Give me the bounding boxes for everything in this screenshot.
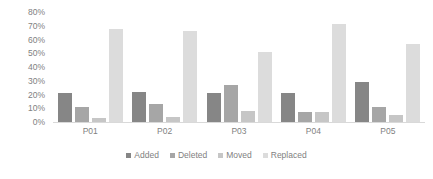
bar-deleted-p03[interactable] [224, 85, 238, 122]
bar-deleted-p04[interactable] [298, 112, 312, 122]
y-axis-tick-label: 80% [28, 7, 45, 17]
bar-moved-p05[interactable] [389, 115, 403, 122]
legend-swatch-icon [170, 153, 175, 158]
bar-group-p02 [127, 12, 201, 122]
x-axis-tick-label: P04 [276, 124, 350, 138]
x-axis-tick-label: P03 [202, 124, 276, 138]
legend-label: Replaced [271, 150, 307, 160]
legend-item-moved[interactable]: Moved [218, 150, 252, 160]
bar-added-p04[interactable] [281, 93, 295, 122]
bar-replaced-p03[interactable] [258, 52, 272, 122]
x-axis-tick-label: P05 [351, 124, 425, 138]
legend-label: Added [134, 150, 159, 160]
bar-moved-p03[interactable] [241, 111, 255, 122]
bar-replaced-p04[interactable] [332, 24, 346, 122]
legend-item-replaced[interactable]: Replaced [263, 150, 307, 160]
y-axis-tick-label: 70% [28, 21, 45, 31]
legend-swatch-icon [126, 153, 131, 158]
bar-replaced-p02[interactable] [183, 31, 197, 122]
y-axis-tick-label: 50% [28, 48, 45, 58]
bar-added-p03[interactable] [207, 93, 221, 122]
bar-deleted-p05[interactable] [372, 107, 386, 122]
x-axis-baseline [53, 122, 425, 123]
bar-group-p05 [351, 12, 425, 122]
bar-chart: 0%10%20%30%40%50%60%70%80% P01P02P03P04P… [0, 0, 433, 179]
legend-label: Deleted [178, 150, 207, 160]
legend-swatch-icon [218, 153, 223, 158]
bar-group-p01 [53, 12, 127, 122]
legend-item-added[interactable]: Added [126, 150, 159, 160]
y-axis: 0%10%20%30%40%50%60%70%80% [0, 12, 49, 122]
legend-item-deleted[interactable]: Deleted [170, 150, 207, 160]
x-axis: P01P02P03P04P05 [53, 124, 425, 138]
bar-moved-p04[interactable] [315, 112, 329, 122]
bar-group-p04 [276, 12, 350, 122]
bar-deleted-p02[interactable] [149, 104, 163, 122]
bar-replaced-p01[interactable] [109, 29, 123, 123]
bar-group-p03 [202, 12, 276, 122]
bar-added-p02[interactable] [132, 92, 146, 122]
legend-label: Moved [226, 150, 252, 160]
y-axis-tick-label: 60% [28, 35, 45, 45]
bar-moved-p02[interactable] [166, 117, 180, 123]
legend-swatch-icon [263, 153, 268, 158]
y-axis-tick-label: 20% [28, 90, 45, 100]
x-axis-tick-label: P02 [127, 124, 201, 138]
chart-legend: AddedDeletedMovedReplaced [0, 148, 433, 162]
y-axis-tick-label: 0% [33, 117, 45, 127]
bar-moved-p01[interactable] [92, 118, 106, 122]
y-axis-tick-label: 30% [28, 76, 45, 86]
plot-area [53, 12, 425, 122]
bar-deleted-p01[interactable] [75, 107, 89, 122]
bar-added-p01[interactable] [58, 93, 72, 122]
x-axis-tick-label: P01 [53, 124, 127, 138]
y-axis-tick-label: 10% [28, 103, 45, 113]
bar-groups [53, 12, 425, 122]
bar-replaced-p05[interactable] [406, 44, 420, 122]
y-axis-tick-label: 40% [28, 62, 45, 72]
bar-added-p05[interactable] [355, 82, 369, 122]
